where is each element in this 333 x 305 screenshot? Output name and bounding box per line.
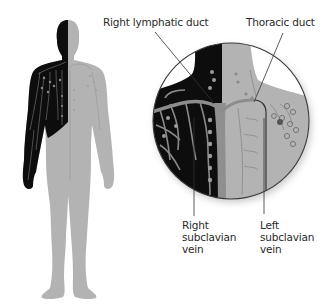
lymphatic-diagram: Right lymphatic duct Thoracic duct Right… [0, 0, 333, 305]
body-figure [23, 20, 114, 299]
label-line: subclavian [260, 231, 330, 243]
magnified-inset [150, 40, 312, 205]
label-right-subclavian-vein: Right subclavian vein [182, 219, 252, 255]
label-right-lymphatic-duct: Right lymphatic duct [103, 16, 208, 28]
label-line: vein [260, 243, 330, 255]
label-line: Left [260, 219, 330, 231]
diagram-artwork [0, 0, 333, 305]
label-left-subclavian-vein: Left subclavian vein [260, 219, 330, 255]
label-line: Right [182, 219, 252, 231]
label-line: subclavian [182, 231, 252, 243]
label-line: vein [182, 243, 252, 255]
label-thoracic-duct: Thoracic duct [246, 16, 315, 28]
